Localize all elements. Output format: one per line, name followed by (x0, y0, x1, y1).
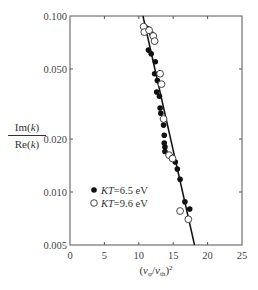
x-tick-label: 15 (168, 250, 179, 261)
filled-point (161, 122, 167, 128)
open-point (185, 216, 192, 223)
y-tick-label: 0.005 (43, 240, 67, 251)
filled-point (177, 177, 183, 183)
open-point (169, 155, 176, 162)
filled-point (148, 51, 154, 57)
filled-point (161, 132, 167, 138)
x-axis-label: (vφ/vth)2 (139, 264, 173, 278)
legend: KT=6.5 eV KT=9.6 eV (91, 185, 148, 209)
plot-frame (70, 16, 242, 245)
y-axis: 0.0050.0100.0200.0500.100 (43, 11, 242, 251)
x-tick-label: 0 (67, 250, 72, 261)
open-point (177, 208, 184, 215)
y-tick-label: 0.010 (43, 187, 67, 198)
legend-label-6-5: KT=6.5 eV (100, 185, 148, 196)
legend-label-9-6: KT=9.6 eV (100, 198, 148, 209)
open-point (157, 70, 164, 77)
filled-point (157, 93, 163, 99)
open-point (151, 38, 158, 45)
filled-point (187, 206, 193, 212)
x-axis: 0510152025 (67, 16, 247, 261)
x-tick-label: 25 (237, 250, 248, 261)
y-axis-label: Im(k) Re(k) (8, 120, 46, 151)
legend-filled-circle-icon (91, 187, 97, 193)
filled-point (182, 199, 188, 205)
filled-point (157, 105, 163, 111)
legend-open-circle-icon (91, 200, 98, 207)
filled-point (153, 59, 159, 65)
y-tick-label: 0.050 (43, 64, 67, 75)
y-tick-label: 0.020 (43, 134, 67, 145)
x-tick-label: 10 (134, 250, 145, 261)
filled-point (175, 166, 181, 172)
open-point (158, 81, 165, 88)
x-tick-label: 5 (102, 250, 107, 261)
y-label-numerator: Im(k) (8, 120, 46, 136)
y-label-denominator: Re(k) (8, 136, 46, 151)
y-tick-label: 0.100 (43, 11, 67, 22)
x-tick-label: 20 (202, 250, 213, 261)
open-point (160, 116, 167, 123)
